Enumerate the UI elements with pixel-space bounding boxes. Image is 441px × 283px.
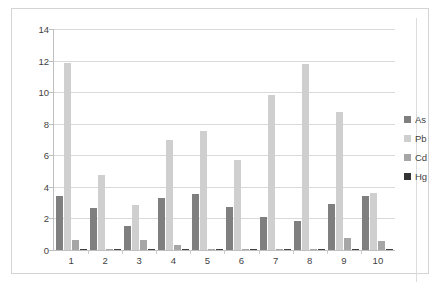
bar-pb-1 [64,63,71,250]
bar-as-4 [158,198,165,250]
bar-pb-10 [370,193,377,250]
legend-item-as[interactable]: As [404,110,441,129]
bar-group-5 [190,29,224,250]
bar-cd-4 [174,245,181,250]
bar-group-10 [361,29,395,250]
x-tick-separator [293,250,294,254]
bar-cd-2 [106,249,113,250]
bar-hg-2 [114,249,121,250]
bar-as-7 [260,217,267,250]
bar-cd-3 [140,240,147,250]
bar-group-7 [259,29,293,250]
bar-cd-10 [378,241,385,250]
bar-as-2 [90,208,97,250]
bar-pb-7 [268,95,275,250]
x-tick-label-4: 4 [156,255,190,269]
bar-pb-2 [98,175,105,250]
y-tick-label-6: 6 [23,151,49,160]
y-tick-label-2: 2 [23,214,49,223]
legend-item-cd[interactable]: Cd [404,148,441,167]
bar-as-10 [362,196,369,250]
bar-hg-1 [80,249,87,250]
bar-group-3 [122,29,156,250]
bar-as-6 [226,207,233,250]
y-tick-mark-4 [49,187,53,188]
bar-hg-7 [284,249,291,250]
bar-group-1 [54,29,88,250]
y-tick-mark-2 [49,218,53,219]
bar-cd-1 [72,240,79,250]
x-tick-separator [156,250,157,254]
x-tick-label-7: 7 [259,255,293,269]
bar-hg-5 [216,249,223,250]
bar-hg-3 [148,249,155,250]
chart-container: 02468101214 12345678910 AsPbCdHg [11,8,429,274]
x-axis-labels: 12345678910 [54,255,395,269]
x-tick-label-2: 2 [88,255,122,269]
x-tick-separator [327,250,328,254]
bar-pb-9 [336,112,343,250]
y-tick-mark-12 [49,61,53,62]
bar-cd-6 [242,249,249,250]
x-tick-label-9: 9 [327,255,361,269]
plot-area: 02468101214 [53,29,395,251]
x-tick-label-10: 10 [361,255,395,269]
bar-groups [54,29,395,250]
x-tick-label-6: 6 [224,255,258,269]
x-tick-label-1: 1 [54,255,88,269]
y-tick-label-8: 8 [23,120,49,129]
x-tick-separator [88,250,89,254]
bar-hg-10 [386,249,393,250]
x-tick-separator [190,250,191,254]
bar-hg-6 [250,249,257,250]
legend-swatch-as-icon [404,116,411,123]
legend-label-as: As [415,115,426,125]
bar-as-5 [192,194,199,250]
x-tick-separator [259,250,260,254]
y-tick-mark-8 [49,124,53,125]
y-tick-label-4: 4 [23,183,49,192]
legend-swatch-pb-icon [404,135,411,142]
bar-group-2 [88,29,122,250]
bar-pb-5 [200,131,207,250]
y-tick-label-12: 12 [23,57,49,66]
bar-group-9 [327,29,361,250]
plot-inner: 02468101214 [53,29,395,251]
y-tick-label-10: 10 [23,88,49,97]
bar-pb-6 [234,160,241,250]
bar-pb-3 [132,205,139,250]
legend-item-pb[interactable]: Pb [404,129,441,148]
bar-group-4 [156,29,190,250]
bar-cd-5 [208,249,215,250]
bar-hg-9 [352,249,359,250]
chart-legend: AsPbCdHg [404,110,441,186]
x-tick-label-5: 5 [190,255,224,269]
bar-group-6 [224,29,258,250]
bar-hg-8 [318,249,325,250]
legend-swatch-hg-icon [404,173,411,180]
bar-as-1 [56,196,63,250]
y-tick-mark-10 [49,92,53,93]
bar-cd-9 [344,238,351,250]
y-tick-mark-6 [49,155,53,156]
bar-as-3 [124,226,131,250]
legend-label-hg: Hg [415,172,427,182]
y-tick-mark-0 [49,250,53,251]
x-tick-label-8: 8 [293,255,327,269]
y-tick-mark-14 [49,29,53,30]
y-tick-label-14: 14 [23,25,49,34]
bar-group-8 [293,29,327,250]
x-tick-separator [361,250,362,254]
y-tick-label-0: 0 [23,246,49,255]
bar-cd-8 [310,249,317,250]
legend-label-pb: Pb [415,134,427,144]
bar-hg-4 [182,249,189,250]
bar-pb-8 [302,64,309,250]
legend-item-hg[interactable]: Hg [404,167,441,186]
bar-as-9 [328,204,335,250]
bar-as-8 [294,221,301,250]
x-tick-separator [224,250,225,254]
bar-pb-4 [166,140,173,250]
x-tick-separator [122,250,123,254]
legend-swatch-cd-icon [404,154,411,161]
